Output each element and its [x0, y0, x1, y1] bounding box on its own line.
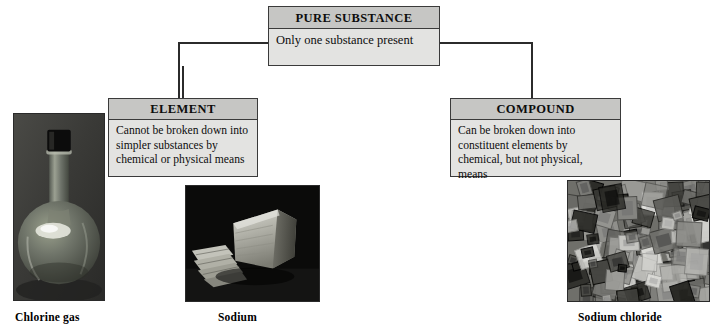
photo-chlorine-gas: [13, 113, 105, 301]
node-element-header: ELEMENT: [109, 99, 257, 120]
photo-sodium-metal: [185, 185, 320, 302]
chlorine-flask-illustration: [14, 114, 104, 300]
node-element: ELEMENT Cannot be broken down into simpl…: [108, 98, 258, 177]
node-pure-substance-header: PURE SUBSTANCE: [269, 7, 439, 29]
node-element-body: Cannot be broken down into simpler subst…: [109, 120, 257, 168]
connector-pure-to-compound-horizontal: [438, 42, 533, 44]
diagram-canvas: PURE SUBSTANCE Only one substance presen…: [0, 0, 710, 327]
salt-crystals-illustration: [568, 181, 709, 301]
node-compound: COMPOUND Can be broken down into constit…: [450, 98, 621, 177]
node-pure-substance-body: Only one substance present: [269, 29, 439, 47]
caption-sodium: Sodium: [218, 311, 257, 323]
caption-chlorine-gas: Chlorine gas: [15, 311, 80, 323]
connector-pure-to-element-vertical: [178, 42, 180, 99]
connector-pure-to-compound-vertical: [531, 42, 533, 99]
connector-pure-to-element-horizontal: [178, 42, 270, 44]
caption-sodium-chloride: Sodium chloride: [578, 311, 662, 323]
node-compound-body: Can be broken down into constituent elem…: [451, 120, 620, 182]
node-pure-substance: PURE SUBSTANCE Only one substance presen…: [268, 6, 440, 66]
sodium-metal-illustration: [186, 186, 319, 301]
photo-sodium-chloride-crystals: [567, 180, 710, 302]
connector-element-stub: [182, 66, 184, 99]
node-compound-header: COMPOUND: [451, 99, 620, 120]
